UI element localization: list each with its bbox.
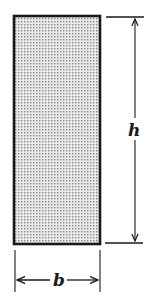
width-dimension: b <box>15 250 100 292</box>
width-label: b <box>53 270 65 290</box>
cross-section-diagram: h b <box>0 0 149 307</box>
height-label: h <box>128 120 140 140</box>
height-dimension: h <box>105 17 144 243</box>
rectangle-section <box>14 16 100 244</box>
